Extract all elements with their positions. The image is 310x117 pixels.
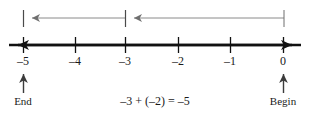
tick-label-minus-2: –2: [172, 55, 184, 67]
end-marker-label: End: [14, 96, 32, 107]
marker-arrows-group: [24, 74, 284, 93]
equation-caption: –3 + (–2) = –5: [120, 95, 190, 107]
tick-label-minus-5: –5: [17, 55, 29, 67]
number-line-figure: –5 –4 –3 –2 –1 0 End Begin –3 + (–2) = –…: [0, 0, 310, 117]
tick-label-minus-3: –3: [119, 55, 131, 67]
tick-label-zero: 0: [280, 55, 286, 67]
tick-label-minus-4: –4: [69, 55, 81, 67]
begin-marker-label: Begin: [270, 96, 296, 107]
tick-label-minus-1: –1: [224, 55, 236, 67]
